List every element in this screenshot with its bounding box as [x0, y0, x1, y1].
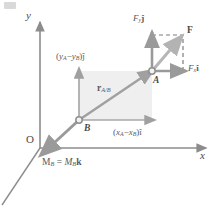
- delta-x-label: (xA−xB)î: [113, 128, 142, 138]
- moment-unit-vector: k: [76, 157, 81, 167]
- moment-equals: =: [54, 157, 64, 167]
- z-axis: [2, 148, 40, 205]
- force-x-unit-vector: î: [196, 63, 199, 73]
- point-b-label: B: [84, 124, 90, 134]
- force-vector-arrow: [152, 36, 182, 71]
- position-vector-subscript: A/B: [101, 86, 110, 93]
- point-b-marker: [76, 117, 82, 123]
- delta-y-label: (yA−yB)ĵ: [56, 52, 85, 62]
- force-label: F: [187, 26, 193, 36]
- force-y-unit-vector: ĵ: [141, 13, 144, 23]
- x-axis-label: x: [200, 150, 205, 161]
- force-y-component-label: Fyĵ: [133, 14, 144, 24]
- position-vector-label: rA/B: [97, 84, 111, 94]
- point-a-marker: [149, 68, 155, 74]
- delta-y-close: )ĵ: [79, 51, 85, 61]
- physics-figure: y x O A B F Fyĵ Fxî rA/B (yA−yB)ĵ (xA−xB…: [0, 0, 216, 208]
- moment-label: MB = MBk: [42, 158, 81, 168]
- figure-canvas: [0, 0, 216, 208]
- delta-x-close: )î: [136, 127, 142, 137]
- force-x-component-label: Fxî: [188, 64, 199, 74]
- moment-vector-arrow: [41, 120, 79, 155]
- y-axis-label: y: [26, 10, 31, 21]
- origin-label: O: [26, 134, 34, 145]
- point-a-label: A: [153, 76, 159, 86]
